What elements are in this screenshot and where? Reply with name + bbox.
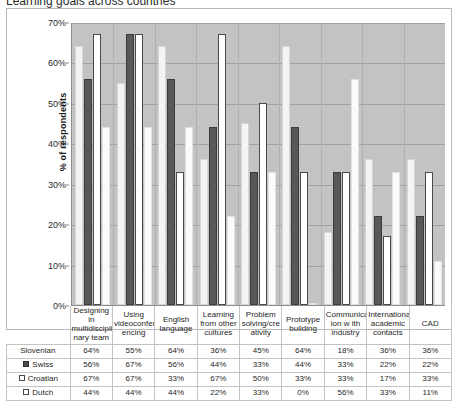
table-column-header: CAD	[409, 306, 451, 344]
table-row: Croatian67%67%33%67%50%33%33%17%33%	[7, 372, 452, 386]
chart-page: Learning goals across countries % of res…	[0, 0, 458, 415]
table-cell-value: 17%	[367, 372, 409, 386]
table-cell-value: 33%	[324, 372, 366, 386]
bar	[209, 127, 217, 305]
bar-group	[196, 23, 237, 305]
bar	[282, 46, 290, 305]
table-corner-cell	[7, 306, 71, 344]
bar	[250, 172, 258, 305]
bar-group	[238, 23, 279, 305]
bar	[75, 46, 83, 305]
bar	[176, 172, 184, 305]
table-row: Slovenian64%55%64%36%45%64%18%36%36%	[7, 344, 452, 358]
legend-swatch-icon	[23, 361, 29, 367]
series-name: Croatian	[28, 374, 58, 383]
table-cell-value: 56%	[155, 358, 197, 372]
table-cell-value: 33%	[324, 358, 366, 372]
table-cell-value: 33%	[282, 372, 324, 386]
bar	[268, 172, 276, 305]
y-tick-label: 50%	[48, 99, 66, 109]
bar	[374, 216, 382, 305]
data-table: Designing in multidiscipli nary teamUsin…	[6, 306, 452, 401]
table-cell-value: 36%	[197, 344, 239, 358]
bar	[383, 236, 391, 305]
bar	[227, 216, 235, 305]
y-tick-label: 60%	[48, 58, 66, 68]
table-cell-value: 22%	[409, 358, 451, 372]
table-row: Dutch44%44%44%22%33%0%56%33%11%	[7, 386, 452, 400]
table-cell-value: 64%	[70, 344, 112, 358]
table-cell-value: 22%	[367, 358, 409, 372]
bar-group	[155, 23, 196, 305]
bar	[416, 216, 424, 305]
bar	[185, 127, 193, 305]
bar	[324, 232, 332, 305]
y-axis-tick-labels: 70%60%50%40%30%20%10%0%	[35, 9, 69, 329]
table-column-header: Prototype building	[282, 306, 324, 344]
table-cell-value: 44%	[70, 386, 112, 400]
legend-swatch-icon	[19, 375, 25, 381]
bar-group	[72, 23, 113, 305]
table-cell-value: 33%	[155, 372, 197, 386]
bar-groups	[72, 23, 445, 305]
table-cell-value: 33%	[367, 386, 409, 400]
table-cell-value: 67%	[70, 372, 112, 386]
table-column-header: Problem solving/cre ativity	[240, 306, 282, 344]
bar	[365, 159, 373, 305]
table-cell-value: 50%	[240, 372, 282, 386]
table-row-header: Dutch	[7, 386, 71, 400]
table-cell-value: 55%	[112, 344, 154, 358]
table-cell-value: 44%	[155, 386, 197, 400]
bar	[241, 123, 249, 305]
series-name: Slovenian	[20, 346, 55, 355]
bar	[425, 172, 433, 305]
table-column-header: Communicat ion w ith industry	[324, 306, 366, 344]
y-tick-mark	[66, 265, 69, 266]
series-name: Dutch	[32, 388, 53, 397]
chart-frame: % of respondents 70%60%50%40%30%20%10%0%	[6, 8, 452, 330]
table-cell-value: 11%	[409, 386, 451, 400]
table-cell-value: 33%	[240, 358, 282, 372]
table-cell-value: 56%	[324, 386, 366, 400]
series-name: Swiss	[32, 360, 53, 369]
y-tick-label: 40%	[48, 139, 66, 149]
data-table-body: Slovenian64%55%64%36%45%64%18%36%36%Swis…	[7, 344, 452, 400]
plot-area	[71, 23, 445, 306]
y-tick-label: 30%	[48, 180, 66, 190]
table-cell-value: 44%	[112, 386, 154, 400]
table-cell-value: 33%	[240, 386, 282, 400]
y-tick-mark	[66, 184, 69, 185]
bar	[407, 159, 415, 305]
bar-group	[279, 23, 320, 305]
table-cell-value: 67%	[112, 372, 154, 386]
bar	[434, 261, 442, 305]
y-tick-label: 20%	[48, 220, 66, 230]
data-table-header-row: Designing in multidiscipli nary teamUsin…	[7, 306, 452, 344]
bar	[126, 34, 134, 305]
chart-title-text: Learning goals across countries	[6, 0, 306, 8]
bar	[309, 303, 317, 305]
table-cell-value: 22%	[197, 386, 239, 400]
bar-group	[113, 23, 154, 305]
bar	[158, 46, 166, 305]
bar-group	[362, 23, 403, 305]
bar	[351, 79, 359, 305]
bar	[84, 79, 92, 305]
bar	[117, 83, 125, 305]
data-table-wrapper: Designing in multidiscipli nary teamUsin…	[6, 306, 452, 401]
table-row-header: Slovenian	[7, 344, 71, 358]
bar	[144, 127, 152, 305]
table-column-header: Using videoconfer encing	[112, 306, 154, 344]
table-cell-value: 44%	[197, 358, 239, 372]
table-cell-value: 67%	[197, 372, 239, 386]
bar	[291, 127, 299, 305]
data-table-head: Designing in multidiscipli nary teamUsin…	[7, 306, 452, 344]
table-row-header: Swiss	[7, 358, 71, 372]
table-cell-value: 36%	[409, 344, 451, 358]
table-column-header: Designing in multidiscipli nary team	[70, 306, 112, 344]
table-column-header: English language	[155, 306, 197, 344]
bar	[392, 172, 400, 305]
bar	[218, 34, 226, 305]
table-column-header: Learning from other cultures	[197, 306, 239, 344]
y-tick-mark	[66, 103, 69, 104]
